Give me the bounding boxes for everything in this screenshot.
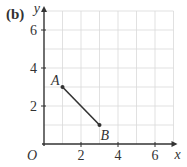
point-B [98, 123, 102, 127]
y-tick-label: 6 [30, 23, 37, 38]
text-labels: 246246OxyAB [27, 1, 182, 163]
y-tick-label: 4 [30, 61, 37, 76]
coordinate-plot: 246246OxyAB [0, 0, 187, 167]
point-A [61, 85, 65, 89]
point-label-A: A [50, 73, 60, 88]
x-tick-label: 6 [152, 148, 159, 163]
y-axis-label: y [32, 1, 41, 16]
grid-lines [44, 11, 174, 144]
y-axis-arrow-icon [41, 6, 47, 12]
axis-ticks [41, 30, 155, 147]
point-label-B: B [101, 128, 110, 143]
y-tick-label: 2 [30, 99, 37, 114]
axes [41, 6, 178, 147]
x-tick-label: 4 [115, 148, 122, 163]
x-axis-label: x [174, 147, 182, 162]
x-tick-label: 2 [78, 148, 85, 163]
origin-label: O [27, 148, 37, 163]
